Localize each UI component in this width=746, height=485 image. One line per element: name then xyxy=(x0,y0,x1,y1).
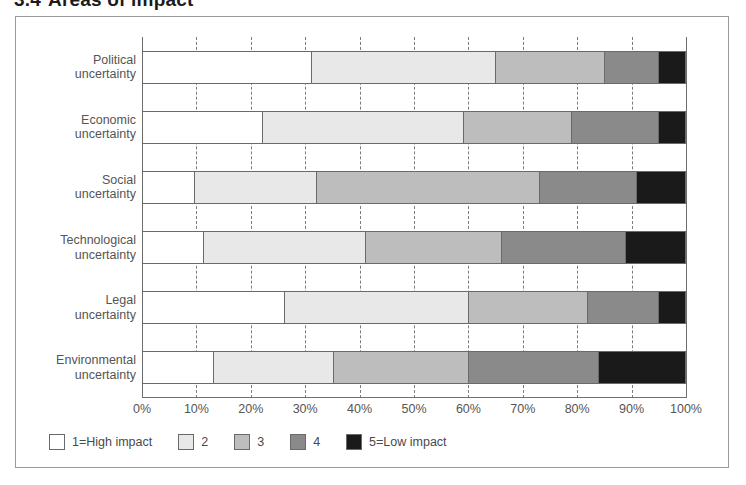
x-axis-tick-label: 100% xyxy=(670,402,702,416)
plot-area xyxy=(142,37,686,398)
y-axis-label-line: uncertainty xyxy=(24,308,136,323)
bar-segment-level-1[interactable] xyxy=(143,292,284,323)
bar-segment-level-1[interactable] xyxy=(143,112,262,143)
bar-segment-level-3[interactable] xyxy=(463,112,571,143)
x-axis-tick-label: 80% xyxy=(565,402,590,416)
y-axis-label: Technologicaluncertainty xyxy=(24,233,136,262)
x-axis-labels: 0%10%20%30%40%50%60%70%80%90%100% xyxy=(142,402,686,420)
bar-segment-level-3[interactable] xyxy=(365,232,501,263)
legend-label: 3 xyxy=(257,435,264,449)
legend-item[interactable]: 2 xyxy=(178,434,208,450)
legend-label: 5=Low impact xyxy=(369,435,446,449)
bar-segment-level-2[interactable] xyxy=(311,52,495,83)
y-axis-label-line: uncertainty xyxy=(24,187,136,202)
bar-segment-level-2[interactable] xyxy=(284,292,468,323)
bar-row[interactable] xyxy=(142,231,686,264)
y-axis-label: Economicuncertainty xyxy=(24,113,136,142)
bar-row[interactable] xyxy=(142,111,686,144)
y-axis-label: Socialuncertainty xyxy=(24,173,136,202)
y-axis-label-line: Political xyxy=(24,53,136,68)
x-axis-tick-label: 10% xyxy=(184,402,209,416)
bar-segment-level-3[interactable] xyxy=(333,352,469,383)
figure-title-text: Areas of impact xyxy=(48,0,194,10)
y-axis-label-line: uncertainty xyxy=(24,368,136,383)
legend-swatch xyxy=(234,434,250,450)
legend-item[interactable]: 3 xyxy=(234,434,264,450)
legend-label: 4 xyxy=(313,435,320,449)
bar-segment-level-2[interactable] xyxy=(213,352,332,383)
legend-label: 2 xyxy=(201,435,208,449)
y-axis-label: Environmentaluncertainty xyxy=(24,353,136,382)
bar-segment-level-5[interactable] xyxy=(636,172,685,203)
x-axis-tick-label: 40% xyxy=(347,402,372,416)
legend-item[interactable]: 1=High impact xyxy=(49,434,152,450)
x-axis-tick-label: 60% xyxy=(456,402,481,416)
bar-segment-level-3[interactable] xyxy=(468,292,587,323)
legend-item[interactable]: 4 xyxy=(290,434,320,450)
bar-segment-level-4[interactable] xyxy=(571,112,658,143)
legend-label: 1=High impact xyxy=(72,435,152,449)
bar-segment-level-4[interactable] xyxy=(539,172,637,203)
bar-segment-level-1[interactable] xyxy=(143,52,311,83)
y-axis-label: Politicaluncertainty xyxy=(24,53,136,82)
x-axis-tick-label: 30% xyxy=(293,402,318,416)
x-axis-tick-label: 50% xyxy=(401,402,426,416)
bar-segment-level-4[interactable] xyxy=(468,352,598,383)
legend-swatch xyxy=(290,434,306,450)
y-axis-labels: PoliticaluncertaintyEconomicuncertaintyS… xyxy=(24,37,136,398)
bar-segment-level-1[interactable] xyxy=(143,172,194,203)
legend-swatch xyxy=(346,434,362,450)
bar-segment-level-4[interactable] xyxy=(587,292,657,323)
figure-number: 3.4 xyxy=(14,0,41,10)
y-axis-label-line: Economic xyxy=(24,113,136,128)
bar-segment-level-2[interactable] xyxy=(194,172,316,203)
figure-title: 3.4Areas of impact xyxy=(14,0,194,11)
gridline-100% xyxy=(686,37,687,398)
bar-segment-level-1[interactable] xyxy=(143,232,203,263)
bar-segment-level-2[interactable] xyxy=(203,232,366,263)
x-axis-tick-label: 90% xyxy=(619,402,644,416)
y-axis-label-line: Environmental xyxy=(24,353,136,368)
x-axis-tick-label: 0% xyxy=(133,402,151,416)
bar-segment-level-5[interactable] xyxy=(625,232,685,263)
y-axis-label-line: Social xyxy=(24,173,136,188)
bar-segment-level-5[interactable] xyxy=(658,52,685,83)
chart-frame: PoliticaluncertaintyEconomicuncertaintyS… xyxy=(15,16,729,468)
x-axis-line xyxy=(142,397,686,398)
y-axis-label-line: Technological xyxy=(24,233,136,248)
y-axis-label-line: uncertainty xyxy=(24,67,136,82)
y-axis-label-line: uncertainty xyxy=(24,127,136,142)
legend-swatch xyxy=(178,434,194,450)
y-axis-label-line: uncertainty xyxy=(24,248,136,263)
bar-segment-level-3[interactable] xyxy=(495,52,603,83)
bar-row[interactable] xyxy=(142,351,686,384)
bar-segment-level-5[interactable] xyxy=(658,112,685,143)
bar-row[interactable] xyxy=(142,51,686,84)
bar-segment-level-1[interactable] xyxy=(143,352,213,383)
legend-item[interactable]: 5=Low impact xyxy=(346,434,446,450)
bar-segment-level-3[interactable] xyxy=(316,172,538,203)
bar-row[interactable] xyxy=(142,171,686,204)
x-axis-tick-label: 20% xyxy=(238,402,263,416)
bar-segment-level-5[interactable] xyxy=(598,352,685,383)
legend-swatch xyxy=(49,434,65,450)
x-axis-tick-label: 70% xyxy=(510,402,535,416)
chart-legend: 1=High impact2345=Low impact xyxy=(49,434,473,450)
bar-segment-level-2[interactable] xyxy=(262,112,463,143)
bar-series-container xyxy=(142,37,686,398)
y-axis-label-line: Legal xyxy=(24,293,136,308)
y-axis-label: Legaluncertainty xyxy=(24,293,136,322)
bar-row[interactable] xyxy=(142,291,686,324)
bar-segment-level-4[interactable] xyxy=(604,52,658,83)
bar-segment-level-5[interactable] xyxy=(658,292,685,323)
bar-segment-level-4[interactable] xyxy=(501,232,626,263)
